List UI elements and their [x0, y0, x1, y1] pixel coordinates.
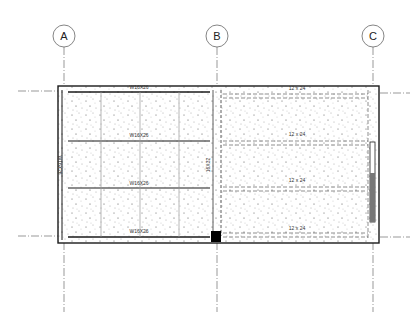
framing-plan: A B C W16X26 W16X26 W16X26: [0, 0, 413, 325]
floor-slab: [58, 86, 379, 243]
svg-text:B: B: [213, 30, 220, 42]
beam-label-upper: W16X26: [129, 132, 148, 138]
grid-bubble-a: A: [53, 25, 75, 47]
svg-text:C: C: [369, 30, 377, 42]
joist-label-2: 12 x 24: [289, 131, 306, 137]
side-beam-label: W16X26: [57, 155, 63, 174]
beam-label-bottom: W16X26: [129, 228, 148, 234]
joist-label-1: 12 x 24: [289, 85, 306, 91]
column: [211, 231, 221, 242]
grid-bubble-b: B: [206, 25, 228, 47]
grid-bubble-c: C: [362, 25, 384, 47]
wall-panel: [370, 142, 375, 222]
joist-label-3: 12 x 24: [289, 177, 306, 183]
beam-label-top: W16X26: [129, 84, 148, 90]
svg-text:A: A: [60, 30, 68, 42]
girder-label: 16X32: [205, 158, 211, 173]
joist-label-4: 12 x 24: [289, 225, 306, 231]
beam-label-lower: W16X26: [129, 180, 148, 186]
